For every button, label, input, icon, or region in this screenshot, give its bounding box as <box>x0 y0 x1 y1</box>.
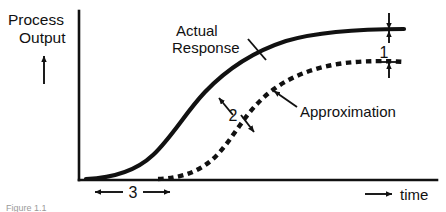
actual-response-label-line2: Response <box>172 39 240 56</box>
x-axis-label-group: time <box>365 186 428 203</box>
figure-canvas: Process Output Actual Response Approxima… <box>0 0 446 212</box>
x-axis-label: time <box>400 186 428 203</box>
process-response-figure: Process Output Actual Response Approxima… <box>0 0 446 212</box>
dimension-3-group: 3 <box>95 184 170 201</box>
axis-group <box>79 11 437 180</box>
y-axis-label-line2: Output <box>19 29 66 46</box>
dimension-2-group: 2 <box>219 98 254 132</box>
dimension-1-group: 1 <box>380 13 398 78</box>
approximation-leader-line <box>274 91 297 107</box>
dimension-2-label: 2 <box>229 107 238 124</box>
approximation-label-group: Approximation <box>274 91 396 120</box>
approximation-curve <box>158 61 404 179</box>
figure-caption: Figure 1.1 <box>6 203 47 212</box>
dimension-3-label: 3 <box>129 184 138 201</box>
dimension-1-label: 1 <box>380 44 389 61</box>
y-axis-label-group: Process Output <box>8 11 66 84</box>
actual-response-label-line1: Actual <box>176 22 218 39</box>
approximation-label: Approximation <box>300 103 396 120</box>
y-axis-label-line1: Process <box>8 11 64 28</box>
